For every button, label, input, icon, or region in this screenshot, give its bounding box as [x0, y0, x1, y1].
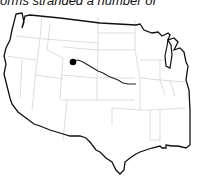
origin-marker	[70, 59, 77, 66]
lake-michigan	[165, 40, 172, 68]
route-line	[73, 60, 136, 84]
us-map	[0, 0, 197, 179]
